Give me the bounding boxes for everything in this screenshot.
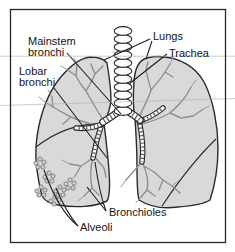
label-lungs: Lungs [153, 30, 183, 42]
right-lung [133, 57, 218, 208]
label-mainstem-bronchi-line2: bronchi [28, 46, 64, 58]
label-trachea: Trachea [169, 47, 210, 59]
trachea-ring [114, 27, 132, 36]
label-alveoli: Alveoli [80, 221, 112, 233]
label-bronchioles: Bronchioles [109, 206, 167, 218]
label-lobar-bronchi-line2: bronchi [19, 76, 55, 88]
anatomy-figure: Mainstem bronchi Lobar bronchi Lungs Tra… [0, 0, 235, 252]
